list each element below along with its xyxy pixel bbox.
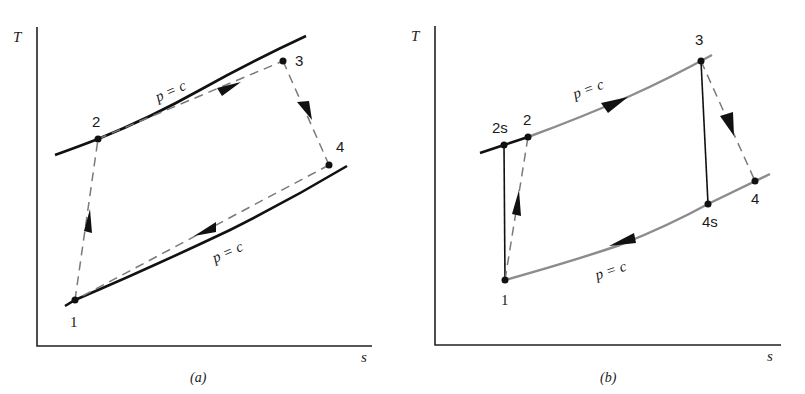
panel-b-state-2s-dot [501,142,508,149]
panel-a-state-4-dot [326,162,333,169]
panel-b-arrow-down-icon [720,112,734,136]
panel-b-state-4s-dot [705,201,712,208]
panel-b-arrow-up-icon [512,190,521,216]
panel-b-state-1-label: 1 [501,292,509,308]
panel-a-x-axis-label: s [361,349,367,365]
panel-a-state-1-dot [72,297,79,304]
panel-a-lower-isobar-label: p = c [209,238,246,266]
panel-b-caption: (b) [600,370,617,386]
panel-b-low-pressure-isobar [505,174,770,280]
panel-a-state-2-dot [95,136,102,143]
panel-b-process-1-2s [504,145,505,280]
panel-b: T s 1 2s 2 3 4s 4 p = c p = c (b [411,26,781,386]
panel-b-upper-isobar-label: p = c [570,76,607,102]
panel-a-state-1-label: 1 [70,314,78,330]
panel-b-high-pressure-isobar [528,55,712,137]
panel-b-state-2s-label: 2s [492,119,508,136]
ts-diagram-figure: T s 1 2 3 4 p = c p = c (a) T s [0,0,805,394]
panel-a-y-axis-label: T [13,29,23,45]
panel-a-state-3-dot [280,58,287,65]
panel-b-y-axis-label: T [411,28,421,44]
panel-a-state-3-label: 3 [295,52,303,69]
panel-b-state-2-dot [525,134,532,141]
panel-a-upper-isobar-label: p = c [152,77,189,105]
panel-b-lower-isobar-label: p = c [592,258,628,283]
panel-b-process-3-4s [701,61,708,204]
panel-a-process-1-2 [75,139,98,300]
panel-a-high-pressure-isobar [55,36,306,155]
panel-b-state-1-dot [502,277,509,284]
panel-a-axes [37,27,372,346]
panel-a: T s 1 2 3 4 p = c p = c (a) [13,27,372,386]
panel-b-axes [435,26,781,345]
panel-b-state-4-dot [752,178,759,185]
panel-a-state-2-label: 2 [92,113,100,130]
panel-a-arrow-down-icon [297,101,312,120]
panel-b-x-axis-label: s [767,348,773,364]
panel-a-arrow-left-icon [194,222,216,236]
panel-b-state-3-dot [698,58,705,65]
panel-a-process-2-3 [98,61,283,139]
panel-a-state-4-label: 4 [336,138,344,155]
panel-a-process-3-4 [283,61,329,165]
panel-a-caption: (a) [190,370,207,386]
panel-b-state-3-label: 3 [695,31,703,48]
panel-b-state-4s-label: 4s [702,213,718,230]
panel-a-low-pressure-isobar [65,166,347,306]
panel-b-state-4-label: 4 [751,190,759,207]
panel-b-arrow-left-icon [609,233,636,246]
panel-b-state-2-label: 2 [523,111,531,128]
panel-a-arrow-up-icon [84,209,92,233]
panel-b-arrow-right-icon [601,97,628,113]
